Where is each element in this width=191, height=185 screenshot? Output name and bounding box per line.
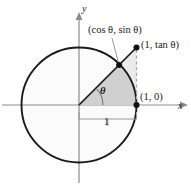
label-x-axis: x: [178, 101, 182, 111]
label-one-zero-point: (1, 0): [140, 92, 163, 103]
point-one-zero: [134, 102, 140, 108]
label-theta-angle: θ: [100, 86, 105, 97]
label-cos-sin-point: (cos θ, sin θ): [88, 25, 142, 36]
unit-circle-figure: (cos θ, sin θ) (1, tan θ) (1, 0) y x θ 1: [0, 0, 191, 185]
label-tan-point: (1, tan θ): [141, 40, 179, 51]
point-tan: [134, 45, 140, 51]
point-cos-sin: [116, 62, 122, 68]
label-radius-measure: 1: [104, 117, 109, 127]
label-y-axis: y: [82, 4, 86, 14]
